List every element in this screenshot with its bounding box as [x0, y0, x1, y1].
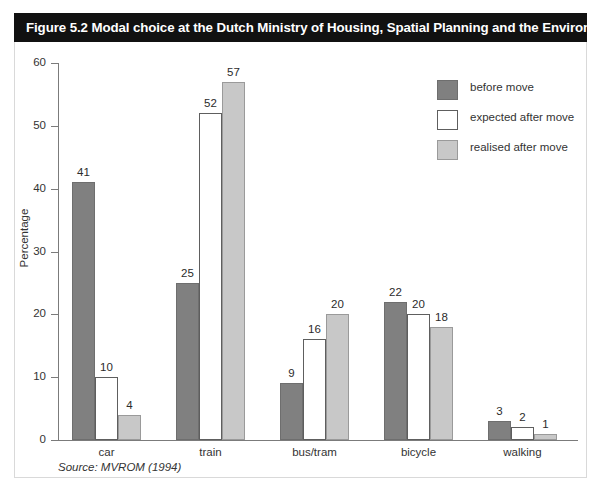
y-axis-title: Percentage	[18, 188, 30, 288]
bar	[430, 327, 453, 440]
legend-item: expected after move	[437, 108, 587, 138]
bar	[72, 182, 95, 440]
bar	[280, 383, 303, 440]
bar	[176, 283, 199, 440]
bar-value-label: 57	[217, 66, 251, 78]
bar-value-label: 10	[90, 361, 124, 373]
bar-value-label: 20	[321, 298, 355, 310]
y-axis-tick	[51, 314, 59, 315]
legend-item: realised after move	[437, 138, 587, 168]
legend-swatch-before	[437, 80, 458, 100]
x-axis-category-label: train	[151, 446, 271, 458]
y-axis-tick	[51, 377, 59, 378]
bar	[222, 82, 245, 440]
x-axis-category-label: bus/tram	[255, 446, 375, 458]
chart-legend: before moveexpected after moverealised a…	[437, 78, 587, 168]
chart-plot-area: Percentage 0102030405060 411042552579162…	[0, 0, 602, 490]
y-axis-tick-label: 60	[10, 56, 46, 68]
legend-label: expected after move	[470, 111, 574, 123]
x-axis-category-label: walking	[463, 446, 583, 458]
bar-value-label: 4	[113, 399, 147, 411]
y-axis-tick-label: 10	[10, 370, 46, 382]
figure-container: Figure 5.2 Modal choice at the Dutch Min…	[0, 0, 602, 490]
y-axis-tick	[51, 189, 59, 190]
y-axis-tick	[51, 252, 59, 253]
y-axis-tick-label: 40	[10, 182, 46, 194]
y-axis-tick	[51, 63, 59, 64]
legend-swatch-expected	[437, 110, 458, 130]
bar-value-label: 18	[425, 311, 459, 323]
bar	[326, 314, 349, 440]
legend-label: realised after move	[470, 141, 568, 153]
y-axis-tick	[51, 440, 59, 441]
y-axis-tick-label: 50	[10, 119, 46, 131]
legend-label: before move	[470, 81, 534, 93]
legend-item: before move	[437, 78, 587, 108]
source-note: Source: MVROM (1994)	[58, 461, 181, 473]
bar-value-label: 20	[402, 298, 436, 310]
x-axis-category-label: bicycle	[359, 446, 479, 458]
y-axis-tick-label: 30	[10, 245, 46, 257]
bar	[384, 302, 407, 440]
x-axis-line	[58, 440, 578, 441]
y-axis-tick-label: 0	[10, 433, 46, 445]
bar	[488, 421, 511, 440]
bar-value-label: 22	[379, 286, 413, 298]
bar-value-label: 1	[529, 418, 563, 430]
legend-swatch-realised	[437, 140, 458, 160]
y-axis-tick-label: 20	[10, 307, 46, 319]
y-axis-tick	[51, 126, 59, 127]
x-axis-category-label: car	[47, 446, 167, 458]
bar	[118, 415, 141, 440]
bar	[303, 339, 326, 440]
bar	[534, 434, 557, 440]
bar	[199, 113, 222, 440]
bar	[407, 314, 430, 440]
bar-value-label: 41	[67, 166, 101, 178]
